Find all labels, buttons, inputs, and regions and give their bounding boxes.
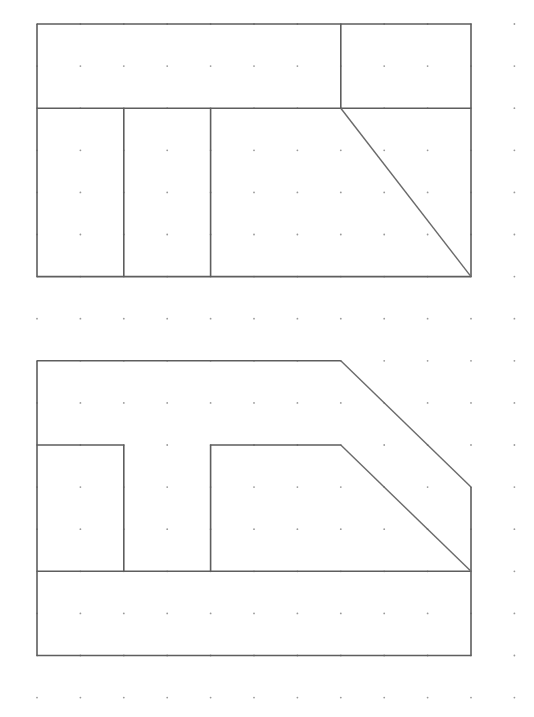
grid-dot [383, 192, 385, 194]
grid-dot [253, 613, 255, 615]
grid-dot [427, 65, 429, 67]
diagonal-edge-line [341, 108, 471, 276]
grid-dot [253, 486, 255, 488]
grid-dot [383, 234, 385, 236]
grid-dot [383, 528, 385, 530]
grid-dot [427, 697, 429, 699]
grid-dot [166, 528, 168, 530]
grid-dot [297, 318, 299, 320]
grid-dot [470, 402, 472, 404]
grid-dot [514, 192, 516, 194]
grid-dot [427, 234, 429, 236]
grid-dot [166, 613, 168, 615]
grid-dot [514, 65, 516, 67]
grid-dot [470, 444, 472, 446]
grid-dot [427, 486, 429, 488]
grid-dot [427, 318, 429, 320]
grid-dot [253, 65, 255, 67]
grid-dot [340, 528, 342, 530]
grid-dot [297, 486, 299, 488]
grid-dot [340, 697, 342, 699]
grid-dot [340, 192, 342, 194]
grid-dot [514, 276, 516, 278]
grid-dot [123, 65, 125, 67]
grid-dot [210, 318, 212, 320]
grid-dot [253, 528, 255, 530]
grid-dot [427, 613, 429, 615]
grid-dot [253, 149, 255, 151]
grid-dot [166, 192, 168, 194]
grid-dot [253, 234, 255, 236]
grid-dot [514, 570, 516, 572]
grid-dot [514, 234, 516, 236]
grid-dot [36, 318, 38, 320]
grid-dot [340, 402, 342, 404]
grid-dot [297, 234, 299, 236]
grid-dot [340, 318, 342, 320]
grid-dot [297, 613, 299, 615]
grid-dot [470, 697, 472, 699]
grid-dot [253, 318, 255, 320]
grid-dot [470, 360, 472, 362]
grid-dot [253, 192, 255, 194]
grid-dot [297, 65, 299, 67]
grid-dot [80, 192, 82, 194]
grid-dot [470, 318, 472, 320]
grid-dot [253, 402, 255, 404]
grid-dot [166, 402, 168, 404]
grid-dot [514, 318, 516, 320]
grid-dot [166, 697, 168, 699]
grid-dot [383, 318, 385, 320]
grid-dot [340, 613, 342, 615]
diagonal-edge-line [341, 445, 471, 571]
grid-dot [80, 149, 82, 151]
grid-dot [383, 65, 385, 67]
grid-dot [210, 697, 212, 699]
grid-dot [514, 697, 516, 699]
grid-dot [514, 655, 516, 657]
grid-dot [80, 318, 82, 320]
grid-dot [514, 613, 516, 615]
grid-dot [383, 697, 385, 699]
grid-dot [80, 528, 82, 530]
grid-dot [427, 149, 429, 151]
grid-dot [514, 444, 516, 446]
grid-dot [123, 613, 125, 615]
diagonal-edge-line [341, 361, 471, 487]
grid-dot [166, 149, 168, 151]
grid-dot [36, 697, 38, 699]
grid-dot [514, 402, 516, 404]
grid-dot [166, 65, 168, 67]
grid-dot [297, 149, 299, 151]
grid-dot [340, 486, 342, 488]
grid-dot [166, 318, 168, 320]
grid-dot [166, 444, 168, 446]
grid-dot [427, 402, 429, 404]
grid-dot [210, 65, 212, 67]
grid-dot [383, 360, 385, 362]
diagram-canvas [0, 0, 534, 717]
grid-dot [123, 318, 125, 320]
grid-dot [210, 613, 212, 615]
grid-dot [166, 486, 168, 488]
grid-dot [297, 402, 299, 404]
grid-dot [514, 360, 516, 362]
edge-line [211, 445, 341, 571]
grid-dot [514, 528, 516, 530]
grid-dot [123, 697, 125, 699]
grid-dot [80, 234, 82, 236]
grid-dot [166, 234, 168, 236]
grid-dot [80, 486, 82, 488]
grid-dot [514, 23, 516, 25]
grid-dot [427, 360, 429, 362]
grid-dot [383, 613, 385, 615]
grid-dot [383, 149, 385, 151]
edge-line [37, 445, 124, 571]
grid-dot [514, 107, 516, 109]
grid-dot [210, 402, 212, 404]
grid-dot [514, 486, 516, 488]
grid-dot [80, 697, 82, 699]
grid-dot [80, 402, 82, 404]
grid-dot [297, 697, 299, 699]
grid-dot [514, 149, 516, 151]
